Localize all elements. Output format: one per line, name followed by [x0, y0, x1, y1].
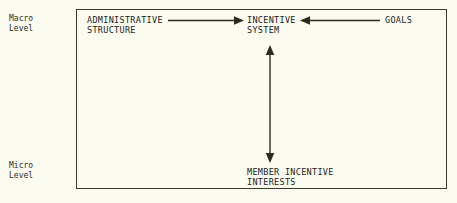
arrow-incentive-system-to-member-incentive-interests: [0, 0, 457, 203]
diagram-canvas: MacroLevel MicroLevel ADMINISTRATIVE STR…: [0, 0, 457, 203]
